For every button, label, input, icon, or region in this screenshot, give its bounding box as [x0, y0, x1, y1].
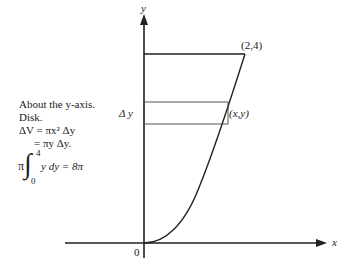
- disk-slice-rect: [144, 102, 228, 124]
- point-2-4-label: (2,4): [241, 39, 262, 52]
- integral-lower: 0: [31, 175, 36, 188]
- parabola-curve: [144, 54, 245, 243]
- point-xy-label: (x,y): [229, 107, 249, 120]
- annotation-line-2: Disk.: [19, 111, 43, 124]
- y-axis-arrow-icon: [140, 14, 148, 25]
- origin-label: 0: [134, 246, 140, 259]
- x-axis-label: x: [332, 236, 337, 249]
- delta-y-label: Δ y: [119, 107, 133, 120]
- integral-upper: 4: [36, 147, 41, 160]
- annotation-line-1: About the y-axis.: [19, 98, 95, 111]
- integrand: y dy = 8π: [41, 160, 83, 173]
- annotation-line-3: ΔV = πx² Δy: [19, 124, 75, 137]
- y-axis-label: y: [141, 2, 146, 15]
- x-axis-arrow-icon: [316, 239, 327, 247]
